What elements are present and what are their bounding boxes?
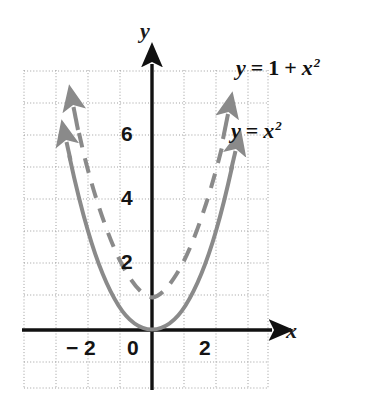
curve-dashed-arrow-left (74, 107, 79, 130)
curve2-lhs: y (231, 118, 241, 143)
curve-label-x-squared: y=x2 (231, 118, 282, 144)
curve-solid-arrow-left (67, 142, 71, 160)
x-tick-label-2: 2 (199, 336, 211, 360)
curve-label-one-plus-x-squared: y=1+x2 (236, 55, 320, 81)
y-tick-label-6: 6 (121, 122, 133, 146)
curve1-variable: x (302, 55, 313, 80)
curve1-equals: = (251, 55, 264, 80)
curve2-variable: x (263, 118, 274, 143)
x-tick-label-negative-2: − 2 (66, 336, 96, 360)
curve-dashed-arrow-right (223, 114, 228, 139)
curve1-lhs: y (236, 55, 246, 80)
graph-figure: y x 6 4 2 − 2 0 2 y=1+x2 y=x2 (0, 0, 369, 417)
x-tick-label-0: 0 (127, 336, 139, 360)
x-axis-label: x (286, 318, 297, 344)
curve2-equals: = (246, 118, 259, 143)
y-tick-label-4: 4 (121, 186, 133, 210)
y-axis-label: y (140, 18, 150, 44)
curve1-exponent: 2 (314, 55, 321, 70)
curve1-plus: + (284, 55, 297, 80)
curve2-exponent: 2 (275, 118, 282, 133)
curve1-constant: 1 (268, 55, 279, 80)
y-tick-label-2: 2 (121, 250, 133, 274)
